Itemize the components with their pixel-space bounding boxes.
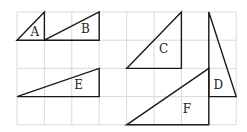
triangle-e: E [17, 68, 99, 96]
triangle-label: F [183, 102, 191, 116]
triangle-outline [17, 68, 99, 96]
triangle-label: A [29, 25, 39, 39]
triangle-label: B [81, 22, 90, 36]
triangle-label: C [159, 42, 168, 56]
triangle-label: D [214, 78, 224, 92]
triangle-grid-diagram: ABCDEF [0, 0, 247, 132]
triangle-label: E [74, 78, 83, 92]
triangle-a: A [17, 12, 44, 40]
triangle-d: D [209, 12, 236, 97]
